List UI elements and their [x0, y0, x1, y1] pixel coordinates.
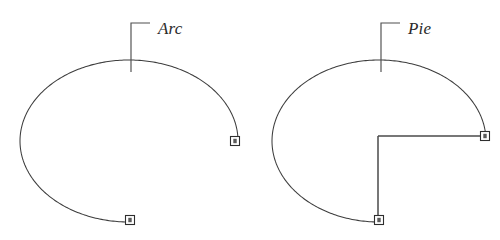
arc-curve[interactable] — [20, 60, 238, 222]
cad-figure: Arc Pie — [0, 0, 500, 240]
pie-object-group[interactable]: Pie — [272, 19, 490, 225]
arc-endpoint-start[interactable] — [231, 137, 240, 146]
grip-center-marker — [483, 134, 486, 138]
arc-object-group[interactable]: Arc — [20, 19, 240, 225]
pie-leader-line — [381, 23, 400, 72]
pie-endpoint-start[interactable] — [481, 132, 490, 141]
pie-grip-group[interactable] — [375, 132, 490, 225]
arc-leader-line — [131, 23, 150, 72]
arc-label: Arc — [157, 19, 183, 38]
arc-endpoint-end[interactable] — [126, 216, 135, 225]
pie-radius-group[interactable] — [378, 136, 485, 220]
diagram-canvas: Arc Pie — [0, 0, 500, 240]
pie-endpoint-end[interactable] — [375, 216, 384, 225]
pie-curve[interactable] — [272, 60, 486, 222]
arc-grip-group[interactable] — [126, 137, 240, 225]
pie-label: Pie — [407, 19, 432, 38]
grip-center-marker — [377, 218, 380, 222]
grip-center-marker — [233, 139, 236, 143]
grip-center-marker — [128, 218, 131, 222]
